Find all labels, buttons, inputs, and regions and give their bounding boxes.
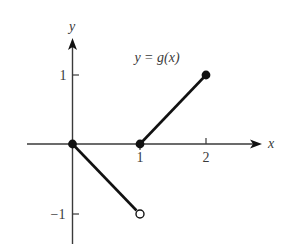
- segment-1: [68, 140, 144, 218]
- open-point-1-neg1: [136, 210, 144, 218]
- closed-point-2-1: [202, 71, 211, 80]
- x-axis-label: x: [267, 136, 275, 151]
- segment-2: [136, 71, 211, 149]
- y-axis-label: y: [67, 19, 76, 34]
- y-tick-label-1: 1: [60, 68, 67, 83]
- x-tick-label-2: 2: [203, 150, 210, 165]
- closed-point-1-0: [136, 140, 145, 149]
- closed-point-origin: [68, 140, 77, 149]
- function-graph: y x y = g(x) 1 2 1 −1: [0, 0, 282, 250]
- x-tick-label-1: 1: [137, 150, 144, 165]
- function-label: y = g(x): [132, 50, 180, 66]
- y-tick-label-neg1: −1: [51, 207, 66, 222]
